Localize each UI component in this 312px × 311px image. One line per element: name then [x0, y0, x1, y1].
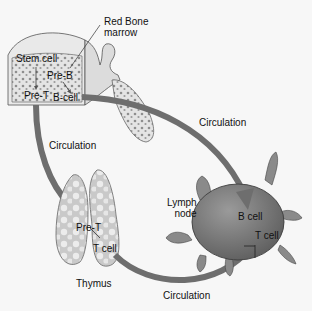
pre-t-marrow-label: Pre-T: [24, 90, 49, 101]
pre-t-thymus-label: Pre-T: [76, 222, 101, 233]
b-cell-marrow-label: B-cell: [53, 92, 78, 103]
circulation-label-bottom: Circulation: [163, 290, 210, 301]
thymus-label: Thymus: [76, 278, 112, 289]
circulation-label-left: Circulation: [49, 140, 96, 151]
red-bone-marrow-label: Red Bone marrow: [104, 16, 148, 38]
circulation-label-top: Circulation: [199, 117, 246, 128]
t-cell-node-label: T cell: [255, 230, 279, 241]
diagram-graphics: [0, 0, 312, 311]
stem-cell-label: Stem cell: [16, 53, 57, 64]
bone-marrow: [8, 25, 154, 142]
diagram-canvas: Red Bone marrow Stem cell Pre-B Pre-T B-…: [0, 0, 312, 311]
lymph-node-label: Lymph node: [167, 197, 197, 219]
pre-b-label: Pre-B: [47, 70, 73, 81]
t-cell-thymus-label: T cell: [93, 243, 117, 254]
b-cell-node-label: B cell: [238, 211, 262, 222]
